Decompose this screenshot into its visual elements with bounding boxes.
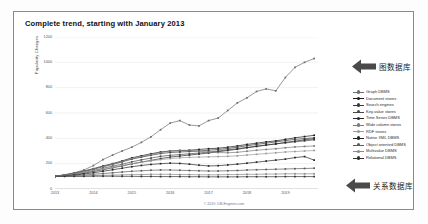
legend-marker-icon (353, 156, 364, 161)
legend-item[interactable]: Document stores (353, 96, 427, 103)
chart-title: Complete trend, starting with January 20… (25, 19, 185, 28)
legend-item-label: Time Series DBMS (366, 115, 400, 122)
x-tick-label: 2017 (204, 191, 212, 195)
x-tick-label: 2019 (281, 191, 289, 195)
annotation-relational-database: 关系数据库 (346, 178, 413, 193)
legend-item-label: Search engines (366, 102, 394, 109)
annotation-graph-database: 图数据库 (352, 59, 411, 74)
legend-item-label: Wide column stores (366, 122, 401, 129)
legend-item[interactable]: Multivalue DBMS (353, 148, 427, 155)
x-tick-label: 2013 (51, 191, 59, 195)
legend-marker-icon (353, 90, 364, 95)
chart-legend: Graph DBMSDocument storesSearch enginesK… (353, 89, 427, 162)
y-tick-label: 1000 (26, 60, 52, 64)
x-tick-label: 2016 (166, 191, 174, 195)
y-tick-label: 0 (26, 187, 52, 191)
y-tick-label: 600 (26, 111, 52, 115)
legend-marker-icon (353, 143, 364, 148)
series-relational-dbms (55, 175, 315, 177)
y-axis-ticks: 020040060080010001200 (22, 37, 52, 189)
chart-credit: © 2019, DB-Engines.com (134, 202, 314, 206)
legend-item-label: Key-value stores (366, 109, 396, 116)
legend-marker-icon (353, 110, 364, 115)
x-axis-ticks: 2013201420152016201720182019 (55, 191, 318, 200)
legend-marker-icon (353, 149, 364, 154)
legend-marker-icon (353, 96, 364, 101)
left-arrow-icon (346, 178, 370, 193)
legend-item[interactable]: Time Series DBMS (353, 115, 427, 122)
legend-marker-icon (353, 129, 364, 134)
left-arrow-icon (352, 59, 376, 74)
legend-item-label: Relational DBMS (366, 155, 396, 162)
legend-item-label: Document stores (366, 96, 396, 103)
y-tick-label: 800 (26, 85, 52, 89)
plot-area (55, 37, 318, 189)
legend-item[interactable]: Search engines (353, 102, 427, 109)
x-tick-label: 2018 (243, 191, 251, 195)
series-graph-dbms (55, 58, 315, 178)
legend-item[interactable]: Native XML DBMS (353, 135, 427, 142)
series-canvas (55, 37, 318, 189)
legend-item[interactable]: Object oriented DBMS (353, 142, 427, 149)
legend-item-label: RDF stores (366, 129, 386, 136)
legend-item[interactable]: RDF stores (353, 129, 427, 136)
legend-item-label: Multivalue DBMS (366, 148, 397, 155)
legend-item[interactable]: Graph DBMS (353, 89, 427, 96)
legend-item-label: Object oriented DBMS (366, 142, 406, 149)
annotation-graph-label: 图数据库 (379, 61, 411, 72)
legend-marker-icon (353, 123, 364, 128)
x-tick-label: 2014 (89, 191, 97, 195)
legend-marker-icon (353, 103, 364, 108)
legend-item-label: Native XML DBMS (366, 135, 399, 142)
y-tick-label: 400 (26, 136, 52, 140)
legend-item-label: Graph DBMS (366, 89, 390, 96)
x-tick-label: 2015 (128, 191, 136, 195)
y-tick-label: 1200 (26, 35, 52, 39)
legend-item[interactable]: Key-value stores (353, 109, 427, 116)
legend-item[interactable]: Relational DBMS (353, 155, 427, 162)
y-tick-label: 200 (26, 161, 52, 165)
screenshot-root: Complete trend, starting with January 20… (0, 0, 428, 224)
legend-marker-icon (353, 136, 364, 141)
legend-item[interactable]: Wide column stores (353, 122, 427, 129)
chart-frame: Complete trend, starting with January 20… (13, 11, 414, 210)
legend-marker-icon (353, 116, 364, 121)
annotation-relational-label: 关系数据库 (373, 180, 413, 191)
